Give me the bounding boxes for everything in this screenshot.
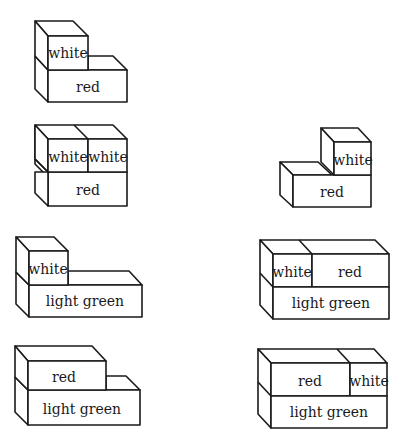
block-label: red [52,369,76,385]
block-label: light green [292,295,370,311]
green-block-top [106,376,140,390]
block-label: white [88,149,127,165]
block-label: red [76,182,100,198]
top-blocks-top [260,240,389,254]
figure-3: white red [280,128,373,207]
green-block-top [68,271,142,285]
block-label: red [298,373,322,389]
block-diagram: white red white white red white red w [0,0,404,442]
block-label: white [349,373,388,389]
red-block-top [88,56,127,70]
block-label: red [76,79,100,95]
block-label: light green [43,401,121,417]
block-label: white [48,45,87,61]
figure-7: red white light green [258,349,389,428]
figure-1: white red [35,21,127,102]
block-label: red [338,264,362,280]
block-label: light green [290,404,368,420]
block-label: white [48,149,87,165]
red-block-top [15,346,106,361]
figure-6: red light green [15,346,140,425]
block-label: light green [46,293,124,309]
block-label: white [333,152,372,168]
red-block-side-lower [35,172,48,206]
figure-2: white white red [35,125,128,206]
block-label: red [320,184,344,200]
block-label: white [28,261,67,277]
top-blocks-top [258,349,387,363]
figure-5: white red light green [260,240,389,319]
block-label: white [272,264,311,280]
figure-4: white light green [16,237,142,317]
